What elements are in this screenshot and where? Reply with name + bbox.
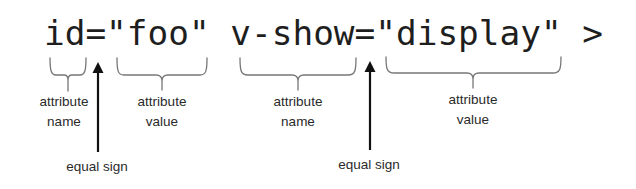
label-attribute-value-2: attribute value: [449, 90, 498, 130]
label-equal-sign-2: equal sign: [338, 155, 400, 175]
label-equal-sign-1: equal sign: [66, 157, 128, 177]
label-attribute-name-1: attribute name: [40, 92, 89, 132]
arrow-up-icon: [93, 62, 104, 152]
label-attribute-value-1: attribute value: [138, 92, 187, 132]
curly-brace-icon: [50, 58, 86, 91]
curly-brace-icon: [240, 58, 356, 90]
label-attribute-name-2: attribute name: [274, 92, 323, 132]
arrow-up-icon: [365, 61, 376, 150]
curly-brace-icon: [117, 58, 207, 90]
curly-brace-icon: [386, 57, 561, 88]
html-attribute-diagram: id="foo" v-show="display" > attribute: [0, 0, 636, 189]
